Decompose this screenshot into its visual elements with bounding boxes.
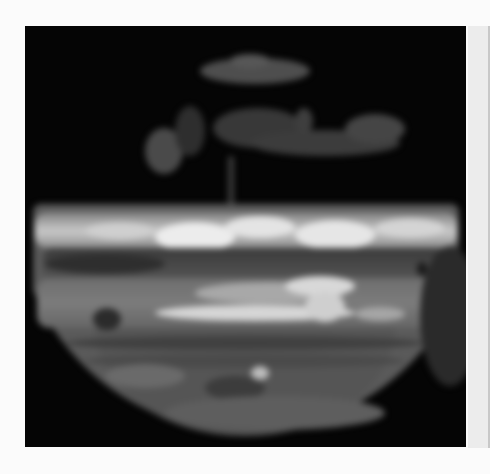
southern-cloud [105, 364, 185, 388]
dark-spot [93, 308, 121, 330]
north-cloud [230, 54, 270, 68]
band-highlight [85, 222, 155, 240]
southern-cloud [165, 396, 385, 430]
planet-image-frame [25, 26, 466, 447]
dark-belt-left [45, 254, 165, 274]
side-strip [468, 26, 490, 448]
southern-belt [65, 336, 425, 350]
edge-dark-spot [417, 262, 427, 276]
north-cloud [345, 114, 405, 144]
jupiter-planet [25, 26, 466, 447]
bright-spot [251, 366, 269, 380]
band-highlight [295, 220, 375, 250]
band-wave [305, 292, 345, 322]
band-highlight [375, 218, 445, 238]
north-cloud [175, 106, 205, 156]
band-highlight [225, 216, 295, 238]
band-wave [355, 307, 405, 321]
north-cloud [295, 108, 313, 134]
